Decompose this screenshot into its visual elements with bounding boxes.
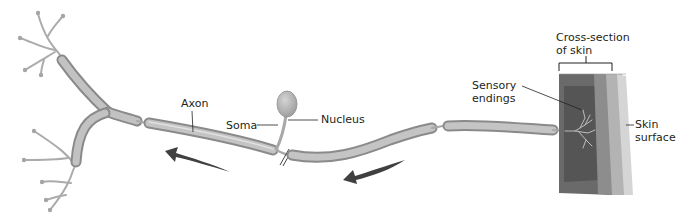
- signal-direction-arrow-left: [165, 147, 230, 172]
- label-soma: Soma: [226, 119, 257, 132]
- label-sensory-endings: Sensory endings: [472, 79, 516, 105]
- label-axon: Axon: [181, 97, 208, 110]
- dendrite-branches-upper: [20, 14, 63, 75]
- soma: [276, 91, 297, 155]
- axon-segment-center: [292, 126, 443, 157]
- axon-terminal-branches: [62, 60, 146, 162]
- label-cross-section-of-skin: Cross-section of skin: [556, 31, 630, 57]
- signal-direction-arrow-center: [343, 160, 405, 184]
- label-nucleus: Nucleus: [321, 113, 365, 126]
- axon-segment-right: [448, 125, 565, 131]
- cross-section-bracket: [559, 56, 612, 71]
- skin-cross-section: [559, 74, 633, 195]
- dendrite-branches-lower: [24, 131, 75, 210]
- label-skin-surface: Skin surface: [635, 118, 676, 144]
